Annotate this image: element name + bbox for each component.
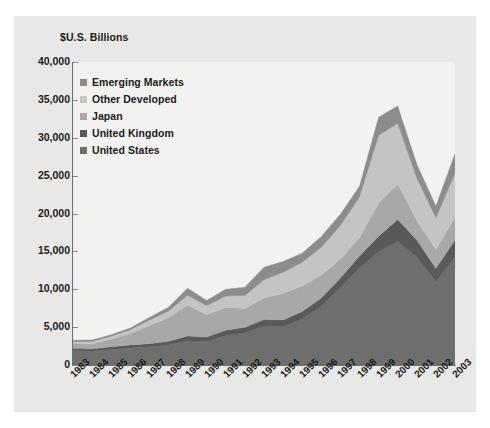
legend-swatch-icon — [80, 147, 87, 154]
y-axis-tick-label: 10,000 — [10, 282, 70, 294]
legend-item-label: Japan — [92, 110, 123, 122]
legend-item-label: Emerging Markets — [92, 76, 184, 88]
y-axis-tick-label: 35,000 — [10, 93, 70, 105]
y-axis-tick-mark — [73, 289, 78, 290]
chart-figure: $U.S. Billions 05,00010,00015,00020,0002… — [0, 0, 490, 428]
legend-item-label: Other Developed — [92, 93, 177, 105]
legend-item[interactable]: Other Developed — [80, 91, 250, 107]
y-axis-tick-mark — [73, 138, 78, 139]
legend-item[interactable]: United States — [80, 142, 250, 158]
y-axis-labels: 05,00010,00015,00020,00025,00030,00035,0… — [4, 0, 70, 428]
y-axis-tick-mark — [73, 365, 78, 366]
legend-swatch-icon — [80, 96, 87, 103]
y-axis-tick-label: 40,000 — [10, 55, 70, 67]
legend-item[interactable]: Emerging Markets — [80, 74, 250, 90]
legend-item[interactable]: Japan — [80, 108, 250, 124]
y-axis-tick-label: 15,000 — [10, 244, 70, 256]
legend-swatch-icon — [80, 79, 87, 86]
y-axis-tick-mark — [73, 62, 78, 63]
legend-swatch-icon — [80, 130, 87, 137]
y-axis-tick-mark — [73, 327, 78, 328]
x-axis-labels: 1983198419851986198719881989199019911992… — [0, 366, 490, 428]
chart-legend: Emerging MarketsOther DevelopedJapanUnit… — [80, 74, 250, 159]
y-axis-tick-label: 20,000 — [10, 207, 70, 219]
legend-item[interactable]: United Kingdom — [80, 125, 250, 141]
y-axis-tick-label: 5,000 — [10, 320, 70, 332]
y-axis-tick-mark — [73, 176, 78, 177]
legend-swatch-icon — [80, 113, 87, 120]
y-axis-tick-label: 30,000 — [10, 131, 70, 143]
y-axis-tick-label: 25,000 — [10, 169, 70, 181]
y-axis-title: $U.S. Billions — [60, 31, 129, 43]
y-axis-tick-mark — [73, 214, 78, 215]
y-axis-tick-mark — [73, 100, 78, 101]
legend-item-label: United States — [92, 144, 160, 156]
y-axis-tick-mark — [73, 251, 78, 252]
legend-item-label: United Kingdom — [92, 127, 174, 139]
